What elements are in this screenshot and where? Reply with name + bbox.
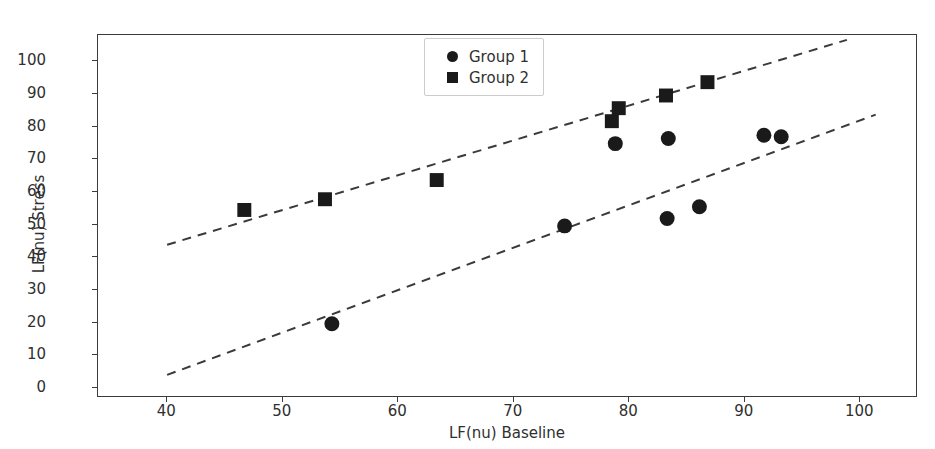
x-tick-label: 50 bbox=[252, 404, 312, 419]
data-point-square bbox=[605, 114, 619, 128]
legend-entry-group-1: Group 1 bbox=[435, 46, 529, 67]
x-tick-label: 60 bbox=[367, 404, 427, 419]
x-tick-mark bbox=[282, 397, 283, 402]
data-point-circle bbox=[324, 316, 339, 331]
x-tick-mark bbox=[166, 397, 167, 402]
data-point-square bbox=[318, 192, 332, 206]
x-tick-mark bbox=[397, 397, 398, 402]
data-point-square bbox=[612, 101, 626, 115]
legend: Group 1 Group 2 bbox=[424, 38, 544, 96]
x-axis-title: LF(nu) Baseline bbox=[97, 424, 917, 442]
x-tick-mark bbox=[744, 397, 745, 402]
legend-label-group-2: Group 2 bbox=[469, 69, 529, 87]
data-point-circle bbox=[661, 131, 676, 146]
trendline-group-1 bbox=[167, 115, 876, 375]
scatter-plot-figure: 0102030405060708090100 405060708090100 L… bbox=[0, 0, 935, 449]
x-tick-label: 90 bbox=[714, 404, 774, 419]
square-marker-icon bbox=[435, 72, 469, 83]
data-point-square bbox=[237, 203, 251, 217]
x-tick-label: 40 bbox=[136, 404, 196, 419]
y-axis-title: LF(nu) Stress bbox=[30, 43, 48, 406]
circle-marker-icon bbox=[435, 51, 469, 62]
x-tick-mark bbox=[859, 397, 860, 402]
data-point-square bbox=[659, 89, 673, 103]
data-point-circle bbox=[756, 128, 771, 143]
x-tick-label: 100 bbox=[829, 404, 889, 419]
data-point-square bbox=[700, 75, 714, 89]
x-tick-label: 80 bbox=[598, 404, 658, 419]
x-tick-label: 70 bbox=[483, 404, 543, 419]
data-point-circle bbox=[557, 218, 572, 233]
legend-entry-group-2: Group 2 bbox=[435, 67, 529, 88]
x-tick-mark bbox=[513, 397, 514, 402]
legend-label-group-1: Group 1 bbox=[469, 48, 529, 66]
data-point-circle bbox=[692, 199, 707, 214]
data-point-circle bbox=[774, 129, 789, 144]
x-tick-mark bbox=[628, 397, 629, 402]
data-point-square bbox=[430, 173, 444, 187]
data-point-circle bbox=[608, 136, 623, 151]
data-point-circle bbox=[660, 211, 675, 226]
